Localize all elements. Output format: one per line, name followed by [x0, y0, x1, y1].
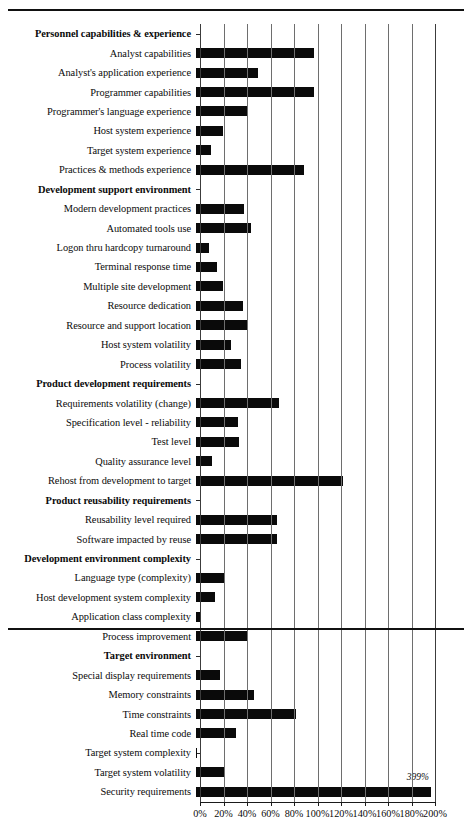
x-axis-tick	[365, 802, 366, 806]
x-axis-tick-label: 60%	[261, 808, 280, 819]
x-axis-tick	[388, 802, 389, 806]
chart-bar-row: Language type (complexity)	[0, 568, 472, 587]
chart-group-label: Product development requirements	[0, 378, 196, 389]
chart-category-label: Application class complexity	[0, 611, 196, 622]
x-axis-tick-label: 80%	[285, 808, 304, 819]
chart-bar-track	[196, 296, 432, 315]
chart-bar	[196, 68, 258, 78]
chart-category-label: Resource and support location	[0, 320, 196, 331]
chart-bar	[196, 48, 314, 58]
horizontal-bar-chart: Personnel capabilities & experienceAnaly…	[0, 24, 472, 624]
chart-group-label: Development support environment	[0, 184, 196, 195]
chart-bar-row: Software impacted by reuse	[0, 529, 472, 548]
chart-bar-row: Target system experience	[0, 141, 472, 160]
chart-category-label: Special display requirements	[0, 670, 196, 681]
chart-bar	[196, 787, 431, 797]
chart-group-label: Personnel capabilities & experience	[0, 28, 196, 39]
chart-bar	[196, 223, 251, 233]
chart-bar-track	[196, 199, 432, 218]
chart-group-header-row: Product reusability requirements	[0, 491, 472, 510]
chart-bar	[196, 437, 239, 447]
chart-bar-track	[196, 277, 432, 296]
chart-bar-row: Host system volatility	[0, 335, 472, 354]
chart-category-label: Real time code	[0, 728, 196, 739]
chart-category-label: Logon thru hardcopy turnaround	[0, 242, 196, 253]
chart-bar-row: Target system complexity	[0, 743, 472, 762]
x-axis-tick	[271, 802, 272, 806]
x-axis-tick	[412, 802, 413, 806]
chart-category-label: Automated tools use	[0, 223, 196, 234]
chart-category-label: Security requirements	[0, 786, 196, 797]
chart-bar	[196, 340, 231, 350]
chart-bar-track	[196, 374, 432, 393]
chart-group-header-row: Target environment	[0, 646, 472, 665]
chart-category-label: Test level	[0, 436, 196, 447]
chart-category-label: Host system experience	[0, 125, 196, 136]
x-axis-tick	[294, 802, 295, 806]
chart-category-label: Resource dedication	[0, 300, 196, 311]
chart-bar-row: Multiple site development	[0, 277, 472, 296]
chart-bar-row: Reusability level required	[0, 510, 472, 529]
chart-bar	[196, 515, 277, 525]
chart-category-label: Programmer capabilities	[0, 87, 196, 98]
chart-bar-row: Practices & methods experience	[0, 160, 472, 179]
chart-category-label: Time constraints	[0, 709, 196, 720]
chart-bar-track	[196, 82, 432, 101]
chart-group-header-row: Personnel capabilities & experience	[0, 24, 472, 43]
chart-bar-track	[196, 238, 432, 257]
chart-bar-row: Resource dedication	[0, 296, 472, 315]
x-axis-tick	[247, 802, 248, 806]
chart-bar-track	[196, 63, 432, 82]
chart-group-label: Development environment complexity	[0, 553, 196, 564]
x-axis-tick	[224, 802, 225, 806]
bottom-rule	[8, 628, 464, 630]
chart-bar-row: Requirements volatility (change)	[0, 393, 472, 412]
chart-category-label: Analyst's application experience	[0, 67, 196, 78]
chart-bar-track	[196, 257, 432, 276]
chart-bar-track	[196, 121, 432, 140]
chart-bar-track	[196, 763, 432, 782]
chart-bar-track	[196, 607, 432, 626]
chart-bar-row: Terminal response time	[0, 257, 472, 276]
chart-bar	[196, 417, 238, 427]
chart-category-label: Process improvement	[0, 631, 196, 642]
chart-bar	[196, 165, 304, 175]
chart-bar-track	[196, 529, 432, 548]
chart-bar-row: Security requirements399%	[0, 782, 472, 801]
chart-bar-track	[196, 218, 432, 237]
chart-bar	[196, 767, 224, 777]
chart-bar-track	[196, 316, 432, 335]
top-rule	[8, 9, 464, 11]
chart-bar	[196, 281, 223, 291]
chart-bar	[196, 476, 343, 486]
chart-bar	[196, 243, 209, 253]
chart-bar	[196, 262, 217, 272]
x-axis-tick	[318, 802, 319, 806]
chart-bar	[196, 145, 211, 155]
chart-category-label: Practices & methods experience	[0, 164, 196, 175]
chart-category-label: Memory constraints	[0, 689, 196, 700]
x-axis-tick-label: 20%	[214, 808, 233, 819]
chart-bar	[196, 456, 212, 466]
x-axis-tick	[200, 802, 201, 806]
chart-bar-track	[196, 685, 432, 704]
chart-bar-track: 399%	[196, 782, 432, 801]
chart-bar-row: Automated tools use	[0, 218, 472, 237]
chart-bar-track	[196, 704, 432, 723]
chart-bar-track	[196, 432, 432, 451]
chart-bar-track	[196, 646, 432, 665]
chart-bar	[196, 612, 200, 622]
chart-group-header-row: Development support environment	[0, 180, 472, 199]
chart-bar-track	[196, 665, 432, 684]
chart-bar	[196, 709, 296, 719]
chart-category-label: Programmer's language experience	[0, 106, 196, 117]
chart-bar	[196, 320, 247, 330]
chart-bar-row: Special display requirements	[0, 665, 472, 684]
chart-bar-row: Real time code	[0, 724, 472, 743]
chart-bar-row: Host system experience	[0, 121, 472, 140]
chart-bar-row: Process volatility	[0, 354, 472, 373]
chart-bar-track	[196, 335, 432, 354]
chart-bar	[196, 728, 236, 738]
chart-plot-area: Personnel capabilities & experienceAnaly…	[0, 24, 472, 802]
chart-bar	[196, 534, 277, 544]
